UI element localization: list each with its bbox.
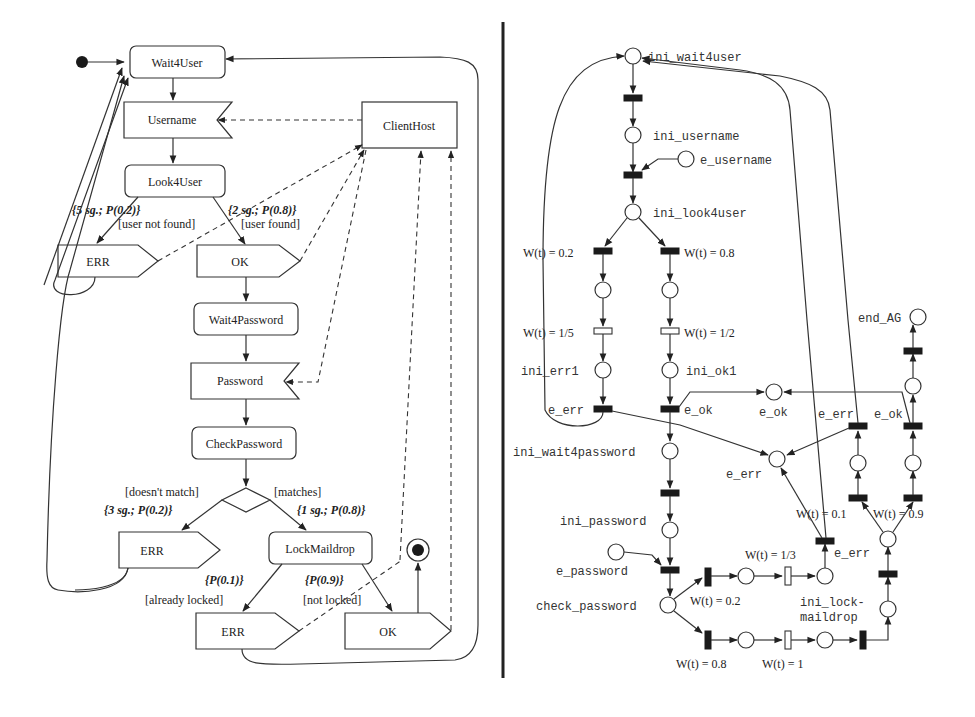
svg-text:Wait4User: Wait4User	[151, 56, 202, 70]
timed-transition	[594, 328, 612, 334]
svg-text:ini_ok1: ini_ok1	[686, 365, 736, 379]
transition-e-err	[816, 538, 834, 544]
svg-text:ERR: ERR	[140, 544, 163, 558]
place	[880, 531, 896, 547]
place-ini-look4user	[625, 204, 641, 220]
svg-text:Username: Username	[148, 113, 197, 127]
transition	[661, 567, 679, 573]
svg-text:ini_wait4password: ini_wait4password	[513, 446, 635, 460]
transition	[860, 631, 866, 649]
svg-text:e_err: e_err	[726, 468, 762, 482]
transition	[904, 348, 922, 354]
uml-activity-diagram: Wait4User Username Look4User ClientHost …	[44, 46, 478, 664]
place	[880, 601, 896, 617]
place-check-password	[660, 597, 676, 613]
figure-canvas: Wait4User Username Look4User ClientHost …	[0, 0, 975, 717]
timed-transition	[785, 567, 791, 585]
object-clienthost: ClientHost	[362, 102, 457, 148]
place-ini-username	[625, 127, 641, 143]
transition-e-ok	[904, 423, 922, 429]
signal-password: Password	[191, 363, 299, 399]
state-checkpassword: CheckPassword	[192, 427, 296, 459]
transition	[849, 495, 867, 501]
svg-text:e_ok: e_ok	[684, 404, 713, 418]
place-ini-err1	[595, 362, 611, 378]
place-end-ag	[910, 309, 926, 325]
place-e-err	[769, 451, 785, 467]
timed-transition	[785, 631, 791, 649]
state-look4user: Look4User	[125, 165, 225, 197]
svg-text:{3 sg.; P(0.2)}: {3 sg.; P(0.2)}	[104, 503, 173, 517]
svg-text:Wait4Password: Wait4Password	[209, 313, 283, 327]
svg-text:OK: OK	[379, 625, 397, 639]
svg-text:W(t) = 0.2: W(t) = 0.2	[690, 594, 740, 608]
svg-text:W(t) = 1/3: W(t) = 1/3	[745, 548, 796, 562]
svg-text:ERR: ERR	[86, 255, 109, 269]
place	[738, 632, 754, 648]
svg-text:W(t) = 1/5: W(t) = 1/5	[523, 326, 574, 340]
svg-text:[user not found]: [user not found]	[118, 217, 195, 231]
svg-text:W(t) = 0.8: W(t) = 0.8	[676, 657, 726, 671]
svg-text:Look4User: Look4User	[148, 175, 202, 189]
svg-text:OK: OK	[231, 255, 249, 269]
svg-text:e_password: e_password	[556, 565, 628, 579]
svg-text:e_ok: e_ok	[874, 408, 903, 422]
svg-text:end_AG: end_AG	[858, 312, 901, 326]
place-ini-password	[662, 522, 678, 538]
transition	[661, 490, 679, 496]
svg-text:e_err: e_err	[834, 547, 870, 561]
svg-text:W(t) = 0.9: W(t) = 0.9	[873, 507, 923, 521]
svg-text:[user found]: [user found]	[241, 217, 300, 231]
state-lockmaildrop: LockMaildrop	[269, 532, 372, 564]
transition	[904, 495, 922, 501]
signal-username: Username	[124, 102, 232, 138]
place	[817, 632, 833, 648]
svg-text:W(t) = 1/2: W(t) = 1/2	[684, 326, 735, 340]
transition	[624, 95, 642, 101]
signal-err-3: ERR	[196, 613, 299, 649]
svg-text:ini_password: ini_password	[560, 515, 646, 529]
transition	[705, 568, 711, 586]
place-e-ok	[766, 384, 782, 400]
place	[662, 282, 678, 298]
svg-text:Password: Password	[217, 374, 263, 388]
place	[850, 455, 866, 471]
place-ini-wait4password	[662, 443, 678, 459]
signal-ok-2: OK	[345, 613, 451, 649]
svg-text:[doesn't match]: [doesn't match]	[125, 485, 199, 499]
place-ini-wait4user	[625, 48, 641, 64]
place-ini-lock-maildrop	[817, 568, 833, 584]
svg-text:{1 sg.; P(0.8)}: {1 sg.; P(0.8)}	[297, 503, 366, 517]
petri-net-diagram: ini_wait4user ini_username e_username in…	[513, 48, 926, 671]
svg-text:LockMaildrop: LockMaildrop	[285, 542, 354, 556]
decision-node	[222, 488, 270, 512]
svg-text:{P(0.9)}: {P(0.9)}	[305, 573, 345, 587]
transition	[705, 631, 711, 649]
place	[905, 455, 921, 471]
svg-text:e_err: e_err	[548, 404, 584, 418]
svg-text:maildrop: maildrop	[800, 611, 858, 625]
svg-text:W(t) = 0.8: W(t) = 0.8	[684, 246, 734, 260]
svg-text:W(t) = 0.1: W(t) = 0.1	[796, 507, 846, 521]
svg-text:ini_lock-: ini_lock-	[800, 596, 865, 610]
transition	[624, 172, 642, 178]
place-e-username	[678, 151, 694, 167]
place	[905, 378, 921, 394]
svg-text:ClientHost: ClientHost	[383, 119, 436, 133]
svg-text:[matches]: [matches]	[274, 485, 321, 499]
svg-text:[already locked]: [already locked]	[145, 593, 223, 607]
transition-e-ok	[661, 406, 679, 412]
svg-text:{P(0.1)}: {P(0.1)}	[205, 573, 245, 587]
transition-e-err	[594, 406, 612, 412]
transition-e-err	[849, 423, 867, 429]
svg-text:e_err: e_err	[818, 408, 854, 422]
signal-err-2: ERR	[119, 532, 220, 568]
place	[595, 282, 611, 298]
timed-transition	[661, 328, 679, 334]
svg-text:W(t) = 0.2: W(t) = 0.2	[523, 246, 573, 260]
svg-text:e_username: e_username	[700, 154, 772, 168]
svg-text:W(t) = 1: W(t) = 1	[762, 657, 803, 671]
transition	[594, 248, 612, 254]
svg-text:ini_username: ini_username	[653, 130, 739, 144]
place-ini-ok1	[662, 362, 678, 378]
